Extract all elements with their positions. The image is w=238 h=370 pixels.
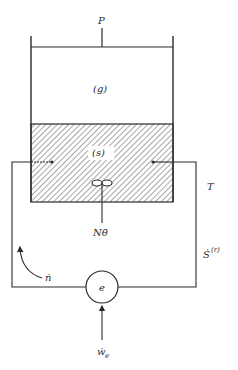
molar-flow-arrow [20,249,42,278]
stirrer-work-label: Nθ̇ [92,227,108,238]
temperature-label: T [207,181,215,192]
solid-phase-label: (s) [92,147,105,158]
entropy-rate-label: Ṡ [203,249,210,260]
gas-phase-label: (g) [93,83,107,94]
right-electrode-tip [151,160,154,163]
stirrer-paddle-left [92,180,102,186]
molar-flow-label: ṅ [45,272,51,283]
stirrer-paddle-right [102,180,112,186]
entropy-rate-superscript: (r) [211,246,220,254]
cell-label: e [99,282,105,293]
thermodynamic-system-diagram: P (g) (s) Nθ̇ T Ṡ (r) ṅ e ẇ e [0,0,238,370]
diagram-canvas: P (g) (s) Nθ̇ T Ṡ (r) ṅ e ẇ e [0,0,238,370]
electric-work-subscript: e [105,352,109,360]
pressure-label: P [97,15,105,26]
left-electrode-tip [50,160,53,163]
piston [31,28,173,47]
